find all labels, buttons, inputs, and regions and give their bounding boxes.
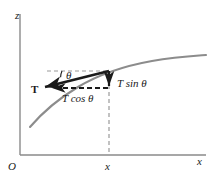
cable-curve	[30, 55, 206, 127]
x-tick-label: x	[104, 160, 110, 172]
axes-group	[20, 14, 206, 155]
cable-curve-group	[30, 55, 206, 127]
origin-label: O	[8, 160, 16, 172]
x-axis-label: x	[196, 155, 202, 167]
angle-arc-group	[61, 71, 62, 77]
vectors-group	[45, 71, 109, 88]
figure-container: z x O x θ T T cos θ T sin θ	[0, 0, 215, 176]
vertical-component-label: T sin θ	[117, 77, 147, 89]
tension-vector-arrow	[45, 71, 109, 87]
theta-arc	[61, 71, 62, 77]
tension-diagram: z x O x θ T T cos θ T sin θ	[0, 0, 215, 176]
z-axis-label: z	[14, 9, 20, 21]
labels-group: z x O x θ T T cos θ T sin θ	[8, 9, 202, 172]
tension-vector-label: T	[31, 83, 39, 95]
theta-angle-label: θ	[66, 69, 72, 81]
horizontal-component-label: T cos θ	[62, 92, 94, 104]
